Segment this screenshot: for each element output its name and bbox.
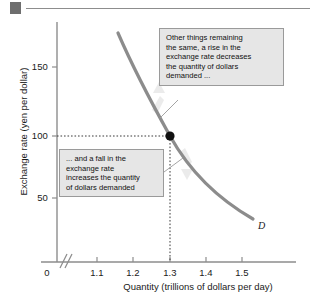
callout-2-line-1: ... and a fall in the: [66, 154, 158, 164]
x-tick-label-1-3: 1.3: [159, 267, 181, 278]
x-tick-label-1-5: 1.5: [231, 267, 253, 278]
callout-1-leader-line: [160, 100, 178, 118]
callout-2-line-3: increases the quantity: [66, 173, 158, 183]
callout-1-line-1: Other things remaining: [166, 33, 278, 43]
x-tick-label-1-2: 1.2: [122, 267, 144, 278]
callout-1-line-4: the quantity of dollars: [166, 62, 278, 72]
callout-1-line-2: the same, a rise in the: [166, 43, 278, 53]
callout-2-leader-line: [164, 158, 183, 172]
figure-demand-for-dollars: 150 100 50 0 1.1 1.2 1.3 1.4 1.5 Exchang…: [0, 0, 310, 300]
x-tick-label-1-1: 1.1: [86, 267, 108, 278]
annotation-callout-fall: ... and a fall in the exchange rate incr…: [59, 149, 164, 197]
axis-break-hatch: [60, 254, 72, 268]
callout-1-line-3: exchange rate decreases: [166, 52, 278, 62]
callout-1-line-5: demanded ...: [166, 71, 278, 81]
x-axis-title: Quantity (trillions of dollars per day): [90, 281, 306, 292]
highlight-point: [165, 131, 174, 140]
x-tick-label-1-4: 1.4: [195, 267, 217, 278]
x-tick-label-0: 0: [37, 267, 57, 278]
callout-2-line-4: of dollars demanded: [66, 183, 158, 193]
annotation-callout-rise: Other things remaining the same, a rise …: [159, 28, 284, 86]
callout-2-line-2: exchange rate: [66, 164, 158, 174]
demand-curve-label: D: [258, 220, 265, 231]
y-axis-title: Exchange rate (yen per dollar): [18, 57, 29, 207]
